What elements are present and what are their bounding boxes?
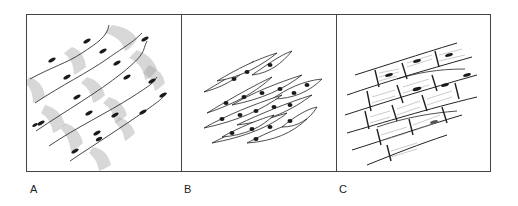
panel-label-a: A: [30, 183, 37, 195]
muscle-tissue-figure: A B C: [0, 0, 518, 206]
panel-a-illustration: [27, 15, 181, 172]
panel-b-illustration: [182, 15, 336, 172]
panel-label-b: B: [184, 183, 191, 195]
panel-c-illustration: [337, 15, 491, 172]
panel-label-c: C: [339, 183, 347, 195]
spindle-cells: [204, 51, 322, 143]
